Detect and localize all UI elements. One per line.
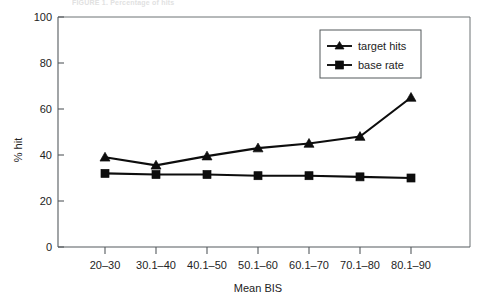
x-axis-ticks [105,247,411,254]
y-axis-ticks [58,17,64,247]
x-tick-label-5: 70.1–80 [340,259,380,271]
x-tick-label-6: 80.1–90 [391,259,431,271]
y-tick-label-0: 0 [46,241,52,253]
line-chart: 100 80 60 40 20 0 % hit 20–30 30.1–40 40… [0,0,486,306]
square-marker [356,173,364,181]
square-marker [305,172,313,180]
square-marker [152,171,160,179]
y-axis-title: % hit [12,138,24,162]
square-marker [407,174,415,182]
x-tick-label-4: 60.1–70 [289,259,329,271]
y-tick-label-100: 100 [34,11,52,23]
y-axis-tick-labels: 100 80 60 40 20 0 [34,11,52,253]
square-marker [336,61,344,69]
chart-legend: target hits base rate [320,30,421,78]
x-tick-label-1: 30.1–40 [136,259,176,271]
x-tick-label-0: 20–30 [90,259,121,271]
legend-entry-base-rate[interactable]: base rate [327,59,404,71]
y-tick-label-40: 40 [40,149,52,161]
square-marker [254,172,262,180]
square-marker [101,169,109,177]
legend-label-base-rate: base rate [358,59,404,71]
x-tick-label-2: 40.1–50 [187,259,227,271]
x-axis-title: Mean BIS [234,282,282,294]
x-axis-tick-labels: 20–30 30.1–40 40.1–50 50.1–60 60.1–70 70… [90,259,431,271]
x-tick-label-3: 50.1–60 [238,259,278,271]
square-marker [203,171,211,179]
y-tick-label-60: 60 [40,103,52,115]
series-line-0 [105,98,411,166]
series-layer [100,93,416,183]
series-target-hits [100,93,416,170]
triangle-marker [100,152,110,161]
triangle-marker [406,93,416,102]
y-tick-label-80: 80 [40,57,52,69]
figure-container: FIGURE 1. Percentage of hits 100 80 60 4… [0,0,486,306]
legend-label-target-hits: target hits [358,40,407,52]
series-base-rate [101,169,415,182]
y-tick-label-20: 20 [40,195,52,207]
